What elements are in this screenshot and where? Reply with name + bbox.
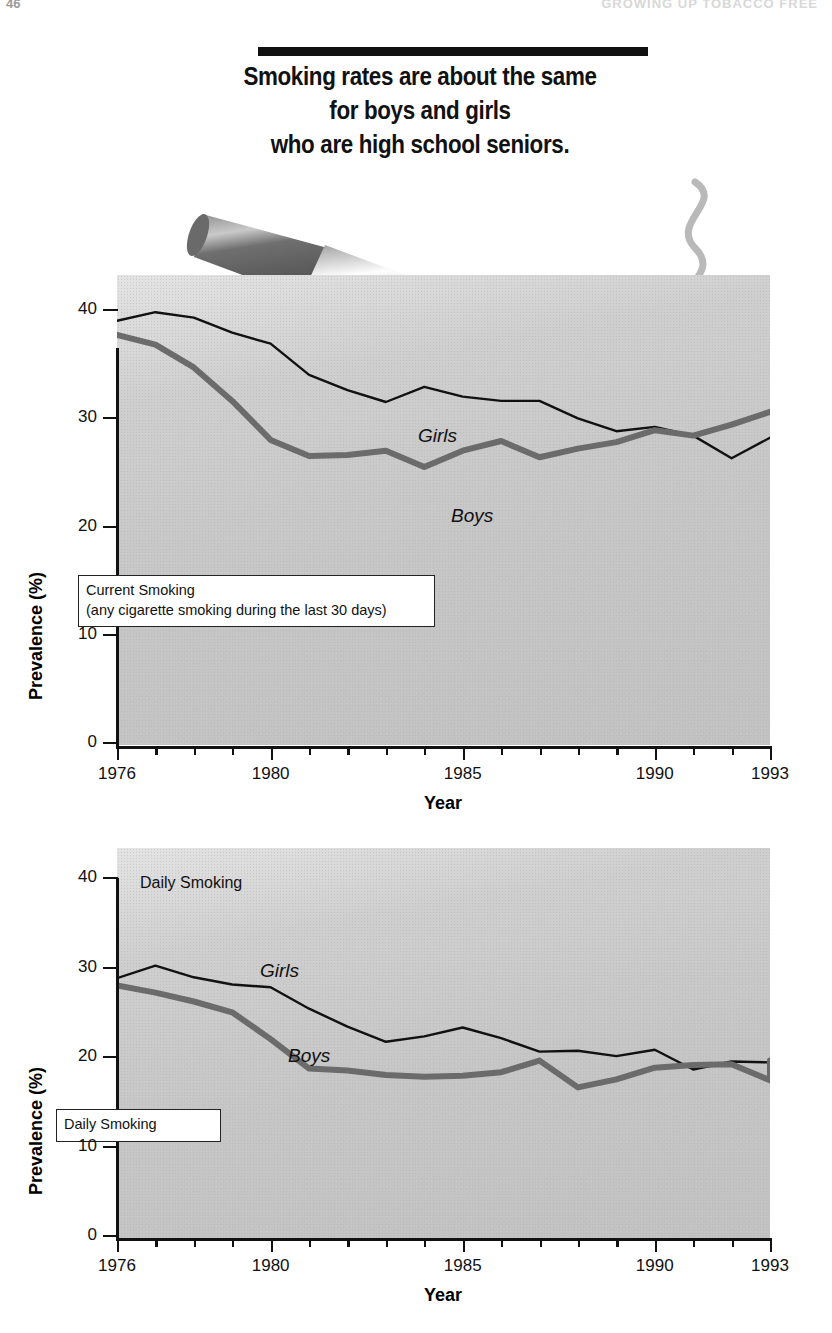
x-tick-label-1993: 1993 [740, 764, 800, 784]
x-tick-1976 [117, 1239, 119, 1252]
x-tick-1976 [117, 747, 119, 760]
headline-line-1: Smoking rates are about the same [188, 60, 652, 94]
x-tick-1981 [309, 1239, 311, 1247]
x-tick-1985 [463, 747, 465, 760]
y-axis-title-2: Prevalence (%) [26, 1067, 47, 1195]
x-tick-label-1976: 1976 [87, 764, 147, 784]
series-label-girls-1: Girls [418, 425, 457, 447]
x-tick-1977 [155, 1239, 157, 1247]
y-tick-label-20: 20 [55, 1046, 97, 1066]
x-tick-label-1993: 1993 [740, 1256, 800, 1276]
page-root: 46 GROWING UP TOBACCO FREE Smoking rates… [0, 0, 832, 1333]
y-tick-label-0: 0 [55, 1225, 97, 1245]
series-line-boys [117, 985, 770, 1087]
x-tick-1978 [194, 1239, 196, 1247]
y-tick-label-30: 30 [55, 957, 97, 977]
x-tick-1982 [347, 747, 349, 755]
x-tick-1991 [693, 1239, 695, 1247]
y-tick-40 [103, 309, 118, 311]
y-tick-label-40: 40 [55, 867, 97, 887]
x-tick-1979 [232, 747, 234, 755]
headline-line-2: for boys and girls [188, 94, 652, 128]
y-tick-0 [103, 742, 118, 744]
plot-note-daily-smoking: Daily Smoking [140, 874, 242, 892]
x-tick-label-1985: 1985 [433, 1256, 493, 1276]
x-tick-label-1976: 1976 [87, 1256, 147, 1276]
series-line-boys [117, 335, 770, 467]
y-tick-label-0: 0 [55, 732, 97, 752]
x-tick-1988 [578, 1239, 580, 1247]
y-tick-10 [103, 1146, 118, 1148]
y-tick-10 [103, 634, 118, 636]
x-tick-1993 [770, 1239, 772, 1252]
y-tick-label-10: 10 [55, 624, 97, 644]
x-tick-1993 [770, 747, 772, 760]
callout-current-smoking: Current Smoking (any cigarette smoking d… [78, 575, 435, 627]
series-lines-1 [117, 275, 770, 745]
y-tick-label-30: 30 [55, 407, 97, 427]
x-tick-1978 [194, 747, 196, 755]
y-tick-0 [103, 1235, 118, 1237]
x-axis-title-2: Year [383, 1285, 503, 1306]
y-axis-title-1: Prevalence (%) [26, 572, 47, 700]
chart-current-smoking: Prevalence (%) Year Current Smoking (any… [0, 270, 832, 830]
y-tick-30 [103, 967, 118, 969]
y-tick-20 [103, 1056, 118, 1058]
x-tick-1982 [347, 1239, 349, 1247]
x-axis-1 [116, 746, 772, 749]
x-tick-label-1990: 1990 [625, 1256, 685, 1276]
headline: Smoking rates are about the same for boy… [188, 60, 652, 161]
y-tick-label-20: 20 [55, 516, 97, 536]
series-lines-2 [117, 848, 770, 1238]
headline-line-3: who are high school seniors. [188, 128, 652, 162]
x-tick-1989 [616, 1239, 618, 1247]
callout-title-2: Daily Smoking [64, 1115, 212, 1135]
x-tick-1983 [386, 747, 388, 755]
x-tick-1979 [232, 1239, 234, 1247]
x-tick-1980 [271, 1239, 273, 1252]
x-tick-1983 [386, 1239, 388, 1247]
y-tick-30 [103, 417, 118, 419]
x-tick-label-1980: 1980 [241, 764, 301, 784]
series-label-boys-2: Boys [288, 1045, 330, 1067]
x-axis-title-1: Year [383, 793, 503, 814]
x-tick-label-1980: 1980 [241, 1256, 301, 1276]
running-head-title: GROWING UP TOBACCO FREE [601, 0, 818, 11]
x-tick-1987 [540, 1239, 542, 1247]
series-label-girls-2: Girls [260, 960, 299, 982]
x-tick-1991 [693, 747, 695, 755]
x-tick-label-1985: 1985 [433, 764, 493, 784]
series-line-girls [117, 966, 770, 1071]
x-tick-1990 [655, 1239, 657, 1252]
series-label-boys-1: Boys [451, 505, 493, 527]
x-tick-1986 [501, 1239, 503, 1247]
x-tick-1989 [616, 747, 618, 755]
y-axis-1 [116, 348, 119, 748]
y-tick-label-10: 10 [55, 1136, 97, 1156]
x-tick-1986 [501, 747, 503, 755]
x-tick-1980 [271, 747, 273, 760]
callout-subtitle-1: (any cigarette smoking during the last 3… [86, 601, 426, 621]
x-tick-1984 [424, 747, 426, 755]
x-tick-1992 [732, 1239, 734, 1247]
x-tick-1981 [309, 747, 311, 755]
x-tick-1984 [424, 1239, 426, 1247]
x-tick-1985 [463, 1239, 465, 1252]
x-tick-label-1990: 1990 [625, 764, 685, 784]
x-tick-1992 [732, 747, 734, 755]
x-axis-2 [116, 1238, 772, 1241]
x-tick-1990 [655, 747, 657, 760]
y-tick-label-40: 40 [55, 299, 97, 319]
x-tick-1988 [578, 747, 580, 755]
headline-rule [258, 47, 648, 56]
callout-title-1: Current Smoking [86, 581, 426, 601]
x-tick-1987 [540, 747, 542, 755]
running-head: 46 GROWING UP TOBACCO FREE [0, 0, 832, 16]
y-axis-2 [116, 878, 119, 1240]
chart-daily-smoking: Prevalence (%) Year Daily Smoking Daily … [0, 830, 832, 1330]
y-tick-40 [103, 877, 118, 879]
y-tick-20 [103, 526, 118, 528]
x-tick-1977 [155, 747, 157, 755]
page-number: 46 [6, 0, 20, 11]
